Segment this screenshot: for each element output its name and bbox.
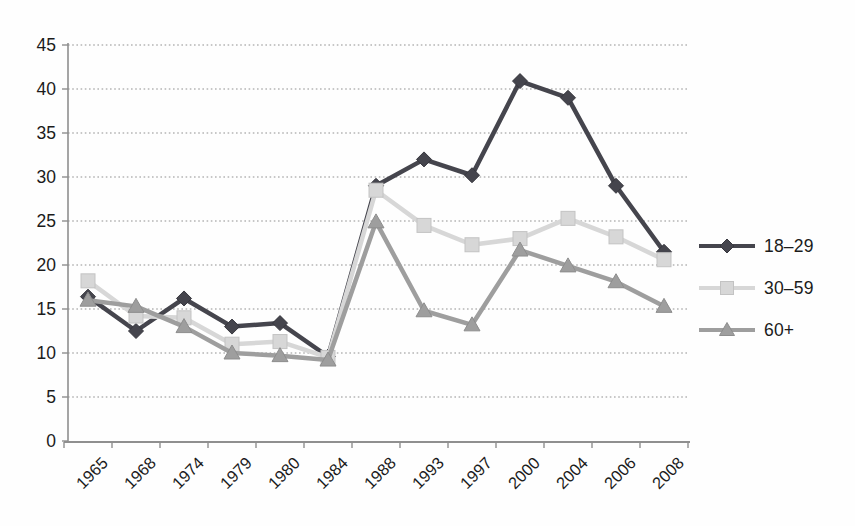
data-point-marker	[417, 218, 431, 232]
y-axis-label: 15	[37, 299, 56, 319]
y-axis-label: 20	[37, 255, 57, 275]
series-square	[81, 183, 671, 364]
y-axis-label: 0	[46, 431, 56, 451]
data-point-marker	[465, 168, 480, 183]
x-axis-label: 1988	[360, 453, 399, 492]
y-axis-label: 35	[37, 123, 56, 143]
x-axis-label: 1974	[168, 453, 207, 492]
x-axis-label: 1993	[408, 453, 447, 492]
legend-label-18-29: 18–29	[764, 236, 814, 257]
x-axis-label: 1965	[72, 453, 111, 492]
x-axis-label: 2008	[648, 453, 687, 492]
x-axis-label: 2004	[552, 453, 591, 492]
data-point-marker	[369, 183, 383, 197]
y-axis-label: 25	[37, 211, 56, 231]
legend-marker-30-59-icon	[698, 279, 756, 297]
legend: 18–29 30–59 60+	[698, 236, 853, 340]
data-point-marker	[81, 274, 95, 288]
x-axis-label: 1979	[216, 453, 255, 492]
legend-marker-60plus-icon	[698, 321, 756, 339]
x-axis-label: 2006	[600, 453, 639, 492]
series-line-3	[88, 222, 664, 360]
y-axis-label: 10	[37, 343, 57, 363]
y-axis-label: 5	[46, 387, 56, 407]
legend-marker-18-29-icon	[698, 237, 756, 255]
data-point-marker	[465, 238, 479, 252]
data-point-marker	[657, 253, 671, 267]
data-point-marker	[513, 74, 528, 89]
legend-label-30-59: 30–59	[764, 278, 814, 299]
data-point-marker	[273, 335, 287, 349]
chart-figure: 0510152025303540451965196819741979198019…	[0, 0, 855, 526]
legend-item-60plus: 60+	[698, 320, 853, 340]
legend-label-60plus: 60+	[764, 320, 794, 341]
data-point-marker	[609, 230, 623, 244]
x-axis-label: 1980	[264, 453, 303, 492]
legend-marker	[721, 282, 734, 295]
x-axis-label: 1968	[120, 453, 159, 492]
x-axis-label: 2000	[504, 453, 543, 492]
y-axis-label: 40	[37, 79, 57, 99]
legend-marker	[720, 239, 734, 253]
x-axis-label: 1997	[456, 453, 495, 492]
y-axis-label: 30	[37, 167, 57, 187]
series-triangle	[80, 214, 672, 366]
y-axis-label: 45	[37, 35, 56, 55]
x-axis-label: 1984	[312, 453, 351, 492]
data-point-marker	[561, 211, 575, 225]
legend-item-18-29: 18–29	[698, 236, 853, 256]
legend-item-30-59: 30–59	[698, 278, 853, 298]
